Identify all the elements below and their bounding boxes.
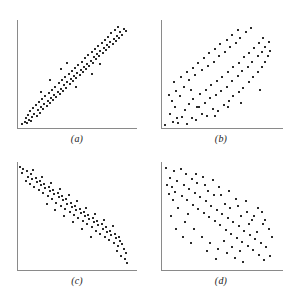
data-point <box>198 106 200 108</box>
data-point <box>183 184 185 186</box>
data-point <box>82 220 84 222</box>
data-point <box>219 224 221 226</box>
data-point <box>41 98 43 100</box>
data-point <box>168 193 170 195</box>
data-point <box>263 259 265 261</box>
data-point <box>91 226 93 228</box>
data-point <box>216 209 218 211</box>
data-point <box>238 91 240 93</box>
data-point <box>38 189 40 191</box>
data-point <box>199 93 201 95</box>
data-point <box>60 68 62 70</box>
data-point <box>219 43 221 45</box>
data-point <box>59 188 61 190</box>
data-point <box>43 183 45 185</box>
data-point <box>182 236 184 238</box>
data-point <box>104 236 106 238</box>
data-point <box>102 228 104 230</box>
data-point <box>21 172 23 174</box>
data-point <box>264 46 266 48</box>
data-point <box>33 186 35 188</box>
data-point <box>87 214 89 216</box>
data-point <box>93 221 95 223</box>
data-point <box>66 203 68 205</box>
data-point <box>260 242 262 244</box>
data-point <box>26 122 28 124</box>
data-point <box>267 55 269 57</box>
data-point <box>261 51 263 53</box>
data-point <box>46 105 48 107</box>
data-point <box>21 123 23 125</box>
data-point <box>95 230 97 232</box>
data-point <box>49 102 51 104</box>
data-point <box>227 217 229 219</box>
data-point <box>39 112 41 114</box>
data-point <box>190 242 192 244</box>
x-axis-d <box>161 270 283 271</box>
data-point <box>31 116 33 118</box>
data-point <box>173 170 175 172</box>
data-point <box>228 100 230 102</box>
y-axis-b <box>161 20 162 129</box>
data-point <box>226 86 228 88</box>
data-point <box>252 76 254 78</box>
data-point <box>168 94 170 96</box>
data-point <box>57 192 59 194</box>
data-point <box>177 207 179 209</box>
data-point <box>113 242 115 244</box>
data-point <box>64 208 66 210</box>
data-point <box>207 65 209 67</box>
data-point <box>195 119 197 121</box>
data-point <box>179 95 181 97</box>
data-point <box>29 110 31 112</box>
data-point <box>271 236 273 238</box>
data-point <box>71 206 73 208</box>
data-point <box>195 173 197 175</box>
data-point <box>105 49 107 51</box>
panel-label-c: (c) <box>57 275 97 286</box>
data-point <box>258 42 260 44</box>
data-point <box>269 50 271 52</box>
data-point <box>180 76 182 78</box>
data-point <box>213 194 215 196</box>
data-point <box>183 86 185 88</box>
data-point <box>35 177 37 179</box>
data-point <box>175 90 177 92</box>
data-point <box>186 123 188 125</box>
y-axis-c <box>17 162 18 271</box>
data-point <box>114 233 116 235</box>
data-point <box>264 219 266 221</box>
data-point <box>243 230 245 232</box>
data-point <box>205 200 207 202</box>
data-point <box>248 52 250 54</box>
data-point <box>253 215 255 217</box>
data-point <box>176 180 178 182</box>
data-point <box>202 176 204 178</box>
data-point <box>74 67 76 69</box>
data-point <box>75 86 77 88</box>
data-point <box>207 190 209 192</box>
data-point <box>201 69 203 71</box>
data-point <box>229 46 231 48</box>
data-point <box>79 208 81 210</box>
data-point <box>121 34 123 36</box>
data-point <box>251 61 253 63</box>
data-point <box>245 31 247 33</box>
data-point <box>245 200 247 202</box>
data-point <box>120 255 122 257</box>
data-point <box>36 181 38 183</box>
data-point <box>72 80 74 82</box>
data-point <box>184 109 186 111</box>
data-point <box>172 121 174 123</box>
data-point <box>237 75 239 77</box>
data-point <box>91 51 93 53</box>
data-point <box>262 223 264 225</box>
panel-d: (d) <box>145 155 289 306</box>
data-point <box>228 190 230 192</box>
data-point <box>48 186 50 188</box>
data-point <box>259 89 261 91</box>
data-point <box>261 66 263 68</box>
data-point <box>84 57 86 59</box>
data-point <box>243 56 245 58</box>
data-point <box>257 55 259 57</box>
